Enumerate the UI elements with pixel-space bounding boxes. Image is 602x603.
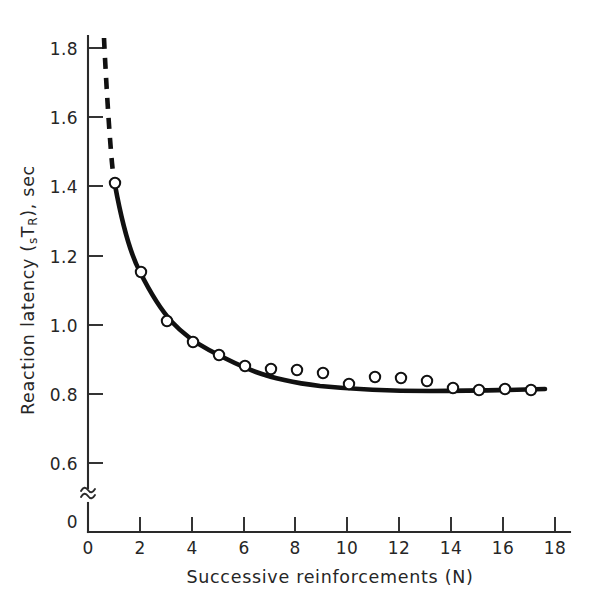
- data-point-n1: [110, 178, 120, 188]
- y-tick-label-1.4: 1.4: [50, 177, 78, 197]
- axes-group: [81, 36, 570, 532]
- data-point-n12: [396, 373, 406, 383]
- x-tick-label-10: 10: [336, 538, 358, 558]
- y-tick-labels: 1.8 1.6 1.4 1.2 1.0 0.8 0.6 0: [50, 39, 78, 532]
- x-tick-label-0: 0: [82, 538, 93, 558]
- chart-figure: 1.8 1.6 1.4 1.2 1.0 0.8 0.6 0 0 2 4: [0, 0, 602, 603]
- x-tick-label-16: 16: [492, 538, 514, 558]
- x-tick-label-18: 18: [544, 538, 566, 558]
- y-tick-label-0.6: 0.6: [50, 454, 78, 474]
- y-axis-break-icon: [81, 494, 95, 499]
- y-tick-label-1.2: 1.2: [50, 247, 78, 267]
- x-tick-label-8: 8: [289, 538, 300, 558]
- data-point-n8: [292, 365, 302, 375]
- y-axis-title-lead: Reaction latency (: [18, 244, 38, 415]
- x-tick-label-12: 12: [388, 538, 410, 558]
- y-tick-label-1.8: 1.8: [50, 39, 78, 59]
- data-point-n17: [526, 385, 536, 395]
- x-tick-marks: [88, 517, 555, 532]
- y-axis-title-sub-pre: s: [26, 237, 40, 244]
- extrapolated-curve-dashed: [104, 38, 115, 185]
- data-point-n5: [214, 350, 224, 360]
- data-point-n15: [474, 385, 484, 395]
- reaction-latency-chart: 1.8 1.6 1.4 1.2 1.0 0.8 0.6 0 0 2 4: [0, 0, 602, 603]
- fitted-curve: [115, 185, 545, 391]
- y-tick-label-origin: 0: [67, 512, 78, 532]
- y-axis-title-sub-post: R: [26, 217, 40, 226]
- x-tick-label-6: 6: [238, 538, 249, 558]
- data-point-n6: [240, 361, 250, 371]
- x-tick-label-14: 14: [440, 538, 462, 558]
- data-point-n9: [318, 368, 328, 378]
- y-axis-title: Reaction latency (sTR), sec: [18, 165, 40, 415]
- data-point-n16: [500, 384, 510, 394]
- data-point-n2: [136, 267, 146, 277]
- y-axis-title-main: T: [18, 226, 38, 238]
- data-point-n10: [344, 379, 354, 389]
- x-tick-label-4: 4: [186, 538, 197, 558]
- data-point-n3: [162, 316, 172, 326]
- data-point-markers: [110, 178, 536, 395]
- data-point-n14: [448, 383, 458, 393]
- data-point-n7: [266, 364, 276, 374]
- y-tick-label-0.8: 0.8: [50, 385, 78, 405]
- data-point-n4: [188, 337, 198, 347]
- y-axis-title-trail: ), sec: [18, 165, 38, 217]
- y-tick-label-1.0: 1.0: [50, 316, 78, 336]
- y-tick-marks: [88, 48, 103, 463]
- x-axis-title: Successive reinforcements (N): [186, 567, 473, 587]
- x-tick-label-2: 2: [134, 538, 145, 558]
- x-tick-labels: 0 2 4 6 8 10 12 14 16 18: [82, 538, 566, 558]
- y-tick-label-1.6: 1.6: [50, 108, 78, 128]
- y-axis-title-group: Reaction latency (sTR), sec: [18, 165, 40, 415]
- data-point-n13: [422, 376, 432, 386]
- data-point-n11: [370, 372, 380, 382]
